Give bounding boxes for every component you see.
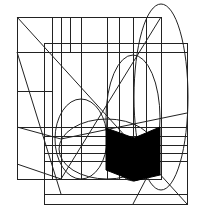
diagonal-line xyxy=(17,52,61,194)
diagram-canvas xyxy=(0,0,201,217)
diagonal-line xyxy=(133,179,146,204)
diagonal-line xyxy=(17,127,61,139)
